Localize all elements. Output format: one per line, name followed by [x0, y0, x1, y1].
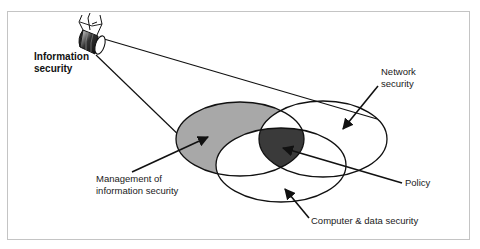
camera-label: Information security: [34, 51, 89, 75]
network-label: Network security: [381, 66, 416, 90]
management-label-line2: information security: [96, 185, 178, 197]
management-label-line1: Management of: [96, 173, 178, 185]
computer-arrow: [285, 189, 309, 218]
camera-label-line2: security: [34, 63, 89, 75]
management-label: Management of information security: [96, 173, 178, 197]
network-label-line2: security: [381, 78, 416, 90]
network-label-line1: Network: [381, 66, 416, 78]
computer-label: Computer & data security: [311, 215, 418, 227]
security-camera-icon: [79, 13, 107, 55]
policy-label: Policy: [405, 177, 430, 189]
venn-diagram: [0, 0, 480, 249]
camera-label-line1: Information: [34, 51, 89, 63]
network-arrow: [343, 86, 378, 129]
sight-line-lower: [96, 55, 186, 142]
